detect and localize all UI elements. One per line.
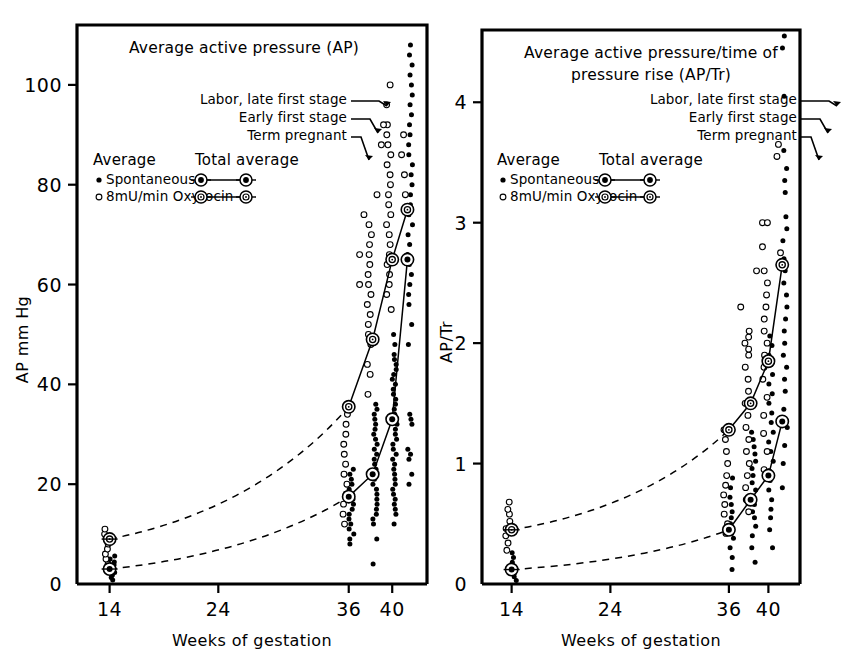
data-point-oxytocin [745, 376, 751, 382]
data-point-oxytocin [388, 152, 394, 158]
total-average-marker-spontaneous [504, 563, 520, 575]
data-point-spontaneous [405, 447, 410, 452]
marker-core-filled [765, 473, 771, 479]
data-point-spontaneous [752, 451, 757, 456]
total-average-marker-oxytocin [776, 259, 788, 271]
legend-total-average-heading: Total average [598, 151, 703, 169]
data-point-oxytocin [725, 461, 731, 467]
data-point-spontaneous [410, 62, 415, 67]
data-point-spontaneous [374, 487, 379, 492]
data-point-spontaneous [348, 522, 353, 527]
data-point-oxytocin [378, 142, 384, 148]
data-point-spontaneous [768, 515, 773, 520]
data-point-spontaneous [407, 52, 412, 57]
data-point-spontaneous [407, 242, 412, 247]
data-point-oxytocin [763, 304, 769, 310]
data-point-spontaneous [371, 522, 376, 527]
marker-dot [348, 406, 350, 408]
data-point-oxytocin [742, 340, 748, 346]
annotations-left: Labor, late first stageEarly first stage… [200, 91, 391, 160]
data-point-oxytocin [746, 352, 752, 358]
y-tick-label-100: 100 [24, 74, 62, 96]
data-point-oxytocin [388, 182, 394, 188]
data-point-oxytocin [723, 482, 729, 488]
data-point-spontaneous [372, 417, 377, 422]
data-point-spontaneous [394, 452, 399, 457]
data-point-spontaneous [406, 292, 411, 297]
data-point-spontaneous [351, 532, 356, 537]
data-point-spontaneous [409, 472, 414, 477]
data-point-oxytocin [361, 212, 367, 218]
total-average-marker-oxytocin [723, 424, 735, 436]
data-point-spontaneous [407, 122, 412, 127]
data-point-spontaneous [347, 527, 352, 532]
data-point-spontaneous [371, 562, 376, 567]
data-point-spontaneous [406, 232, 411, 237]
data-point-spontaneous [781, 280, 786, 285]
data-point-spontaneous [782, 34, 787, 39]
data-point-spontaneous [767, 527, 772, 532]
data-point-oxytocin [386, 202, 392, 208]
data-point-spontaneous [390, 457, 395, 462]
data-point-spontaneous [782, 329, 787, 334]
data-point-spontaneous [372, 457, 377, 462]
data-point-spontaneous [408, 452, 413, 457]
data-point-oxytocin [746, 437, 752, 443]
data-point-spontaneous [781, 353, 786, 358]
data-point-oxytocin [764, 394, 770, 400]
data-point-oxytocin [386, 192, 392, 198]
marker-dot [372, 339, 374, 341]
data-point-oxytocin [340, 511, 346, 517]
x-tick-label-14: 14 [499, 598, 524, 620]
data-point-spontaneous [373, 402, 378, 407]
marker-dot [781, 264, 783, 266]
data-point-spontaneous [780, 238, 785, 243]
data-point-oxytocin [746, 461, 752, 467]
data-point-spontaneous [347, 542, 352, 547]
data-point-spontaneous [782, 178, 787, 183]
data-point-spontaneous [406, 457, 411, 462]
data-point-spontaneous [783, 389, 788, 394]
data-point-spontaneous [392, 472, 397, 477]
annotation-label-2: Early first stage [689, 109, 797, 125]
total-average-marker-oxytocin [366, 333, 378, 345]
data-point-oxytocin [385, 142, 391, 148]
data-point-spontaneous [771, 430, 776, 435]
data-point-spontaneous [730, 476, 735, 481]
annotation-label-1: Labor, late first stage [200, 91, 347, 107]
data-point-spontaneous [730, 509, 735, 514]
data-point-oxytocin [367, 242, 373, 248]
data-point-spontaneous [752, 515, 757, 520]
data-point-spontaneous [408, 72, 413, 77]
data-point-spontaneous [390, 442, 395, 447]
data-point-spontaneous [393, 507, 398, 512]
data-point-spontaneous [727, 495, 732, 500]
data-point-oxytocin [384, 162, 390, 168]
annotations-right: Labor, late first stageEarly first stage… [650, 91, 841, 160]
data-point-oxytocin [722, 502, 728, 508]
data-point-spontaneous [751, 473, 756, 478]
data-point-oxytocin [342, 521, 348, 527]
data-point-oxytocin [724, 449, 730, 455]
data-point-spontaneous [783, 214, 788, 219]
data-point-spontaneous [112, 554, 117, 559]
data-point-oxytocin [364, 361, 370, 367]
data-point-oxytocin [374, 192, 380, 198]
data-point-spontaneous [346, 517, 351, 522]
total-average-marker-spontaneous [762, 469, 774, 481]
data-point-spontaneous [392, 462, 397, 467]
total-average-marker-spontaneous [343, 490, 355, 502]
data-point-spontaneous [766, 401, 771, 406]
x-axis-ticks: 14243640 [97, 584, 405, 620]
data-point-spontaneous [349, 477, 354, 482]
data-point-oxytocin [760, 244, 766, 250]
data-point-oxytocin [774, 154, 780, 160]
data-point-oxytocin [384, 132, 390, 138]
data-point-oxytocin [402, 192, 408, 198]
data-point-spontaneous [753, 524, 758, 529]
data-point-spontaneous [391, 372, 396, 377]
marker-core-filled [370, 471, 376, 477]
data-point-oxytocin [365, 322, 371, 328]
data-point-spontaneous [392, 477, 397, 482]
data-point-oxytocin [504, 547, 510, 553]
